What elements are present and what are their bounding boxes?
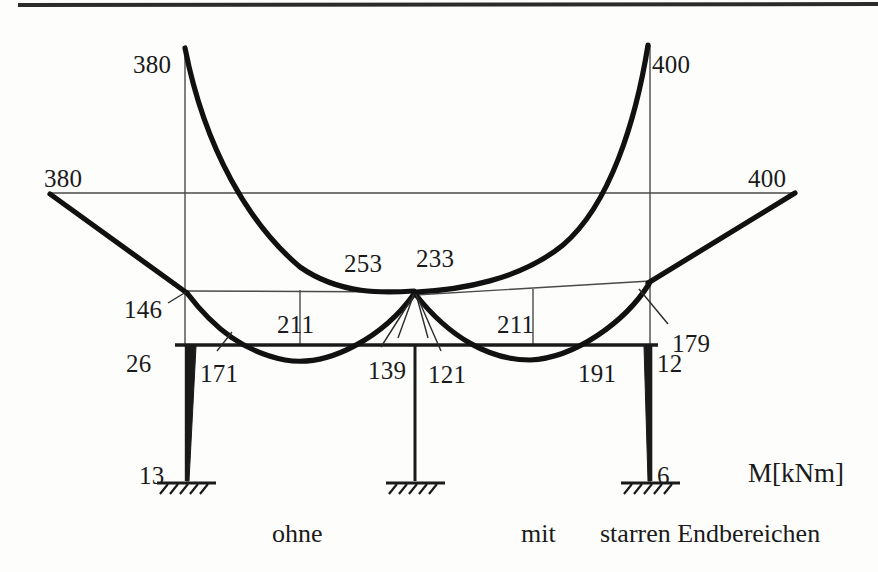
moment-unit-label: M[kNm] [748,460,844,487]
value-label-211-right: 211 [497,312,534,337]
value-label-12: 12 [657,351,682,376]
value-label-121: 121 [428,362,466,387]
cantilever-left-line [50,194,187,293]
leader-121 [417,296,441,351]
caption-mit: mit [521,521,556,547]
caption-starren-endbereichen: starren Endbereichen [600,521,820,547]
caption-ohne: ohne [272,521,323,547]
value-label-191: 191 [578,361,616,386]
top-rule [18,4,878,5]
value-label-400-cantilever: 400 [748,166,786,191]
value-label-253: 253 [344,251,382,276]
value-label-400-column: 400 [652,52,690,77]
support-right [621,483,680,494]
value-label-146: 146 [124,297,162,322]
left-column [186,346,196,481]
value-label-380-cantilever: 380 [44,166,82,191]
value-label-139: 139 [368,358,406,383]
leader-146 [168,292,186,303]
moment-curve-with-rigid-zones [187,284,649,361]
value-label-380-column: 380 [133,52,171,77]
value-label-6: 6 [657,463,670,488]
value-label-13: 13 [139,463,164,488]
value-label-211-left: 211 [277,312,314,337]
support-left [157,483,216,494]
leader-179 [639,289,668,324]
leader-139 [381,295,414,347]
value-label-233: 233 [416,246,454,271]
moment-diagram-svg [0,0,878,572]
value-label-171: 171 [200,361,238,386]
support-middle [386,483,445,494]
cantilever-right-line [648,193,795,283]
value-label-26: 26 [126,351,151,376]
figure-canvas: 380 380 400 400 146 26 13 171 211 253 23… [0,0,878,572]
